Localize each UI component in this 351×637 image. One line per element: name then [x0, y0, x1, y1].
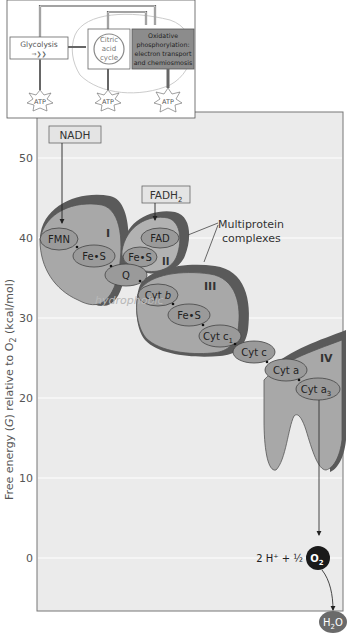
svg-text:Fe•S: Fe•S	[128, 252, 152, 263]
svg-text:Fe•S: Fe•S	[177, 310, 201, 321]
complex-IV-label: IV	[320, 352, 333, 365]
svg-text:FAD: FAD	[150, 233, 170, 244]
complex-III-label: III	[204, 280, 216, 293]
complex-I-label: I	[106, 227, 110, 240]
svg-text:Fe•S: Fe•S	[82, 251, 106, 262]
tick-50: 50	[19, 152, 33, 165]
svg-text:Oxidative: Oxidative	[148, 32, 178, 39]
svg-text:ATP: ATP	[34, 98, 46, 106]
y-axis-label: Free energy (G) relative to O2 (kcal/mol…	[3, 279, 18, 500]
glycolysis-arrows-icon: ⇒❯❯	[31, 50, 46, 58]
svg-text:ATP: ATP	[102, 98, 114, 106]
carrier-cyt-c: Cyt c	[233, 341, 275, 363]
svg-text:Q: Q	[122, 270, 130, 281]
tick-40: 40	[19, 232, 33, 245]
svg-text:Cyt c: Cyt c	[241, 347, 267, 358]
y-axis-ticks: 50 40 30 20 10 0	[19, 152, 33, 565]
tick-20: 20	[19, 392, 33, 405]
svg-text:Glycolysis: Glycolysis	[20, 40, 58, 49]
tick-10: 10	[19, 472, 33, 485]
carrier-cyt-a3: Cyt a3	[296, 378, 340, 400]
tick-30: 30	[19, 312, 33, 325]
svg-text:electron transport: electron transport	[135, 50, 192, 58]
complexes-label: complexes	[222, 232, 281, 245]
carrier-fes-3: Fe•S	[168, 304, 210, 326]
svg-text:cycle: cycle	[100, 54, 118, 62]
nadh-label: NADH	[59, 129, 90, 141]
multiprotein-label: Multiprotein	[218, 218, 284, 231]
electron-transport-chain-diagram: 50 40 30 20 10 0 Free energy (G) relativ…	[0, 0, 351, 637]
carrier-fad: FAD	[141, 228, 179, 248]
complex-II-label: II	[162, 256, 169, 267]
carrier-q: Q	[105, 264, 147, 286]
svg-text:and chemiosmosis: and chemiosmosis	[134, 59, 193, 66]
svg-text:FMN: FMN	[48, 234, 70, 245]
svg-text:acid: acid	[102, 45, 117, 53]
svg-text:Citric: Citric	[100, 36, 118, 44]
svg-text:ATP: ATP	[162, 98, 174, 106]
svg-text:Cyt a: Cyt a	[273, 365, 299, 376]
svg-text:phosphorylation:: phosphorylation:	[136, 41, 189, 49]
equation-label: 2 H⁺ + ½	[256, 553, 303, 564]
carrier-cyt-a: Cyt a	[265, 359, 307, 381]
inset-overview: Glycolysis ⇒❯❯ Citric acid cycle Oxidati…	[7, 0, 195, 118]
carrier-fmn: FMN	[40, 228, 78, 250]
tick-0: 0	[26, 552, 33, 565]
carrier-fes-1: Fe•S	[73, 245, 115, 267]
hydrophobic-annotation: hydrophobic	[95, 294, 164, 307]
